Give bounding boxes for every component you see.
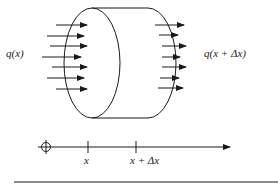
inflow-label: q(x): [6, 48, 24, 59]
tick-x-label: x: [84, 155, 89, 166]
outflow-label: q(x + Δx): [204, 48, 246, 59]
tick-x-dx-label: x + Δx: [130, 155, 159, 166]
x-axis: [38, 140, 230, 154]
inflow-arrows: [42, 25, 87, 89]
outflow-arrows: [155, 25, 186, 88]
